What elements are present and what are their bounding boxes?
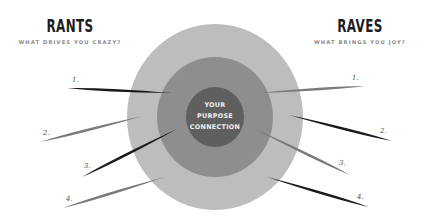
rant-spike xyxy=(63,177,165,208)
rave-number: 2. xyxy=(379,127,387,135)
rave-number: 3. xyxy=(339,159,346,167)
target-diagram: YOUR PURPOSE CONNECTION 1.2.3.4.1.2.3.4. xyxy=(0,0,427,224)
rants-raves-diagram: RANTS WHAT DRIVES YOU CRAZY? RAVES WHAT … xyxy=(0,0,427,224)
rave-spike xyxy=(289,115,392,141)
rant-number: 1. xyxy=(72,76,79,84)
rave-number: 4. xyxy=(356,193,364,201)
rave-spike xyxy=(267,177,369,207)
rant-number: 2. xyxy=(42,129,50,137)
center-label-line: YOUR xyxy=(203,101,225,109)
rant-spike xyxy=(40,116,143,142)
center-label-line: CONNECTION xyxy=(190,123,240,131)
rant-number: 3. xyxy=(84,162,91,170)
rant-number: 4. xyxy=(65,195,73,203)
rave-number: 1. xyxy=(352,74,359,82)
center-label-line: PURPOSE xyxy=(197,112,233,120)
